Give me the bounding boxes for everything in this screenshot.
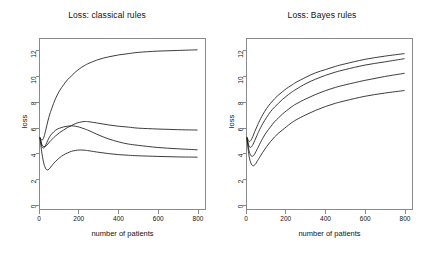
y-tick-label: 10 [30, 76, 37, 90]
x-tick-label: 400 [316, 215, 336, 222]
plot-area-classical [39, 38, 206, 210]
x-tick-label: 200 [69, 215, 89, 222]
y-axis-title-classical: loss [20, 102, 29, 142]
y-tick-label: 6 [30, 128, 37, 142]
curve-group-classical [40, 39, 205, 209]
y-tick-label: 12 [237, 50, 244, 64]
data-line-curve-4 [247, 91, 404, 166]
panel-bayes-rules: Loss: Bayes rules 024681012 020040060080… [215, 0, 429, 258]
panel-title-bayes: Loss: Bayes rules [215, 10, 429, 20]
y-tick-label: 4 [237, 153, 244, 167]
x-tick-label: 0 [29, 215, 49, 222]
panel-classical-rules: Loss: classical rules 024681012 02004006… [0, 0, 214, 258]
y-tick-label: 4 [30, 153, 37, 167]
x-tick-label: 200 [276, 215, 296, 222]
plot-area-bayes [246, 38, 413, 210]
x-tick-label: 600 [148, 215, 168, 222]
data-line-curve-2 [40, 121, 197, 146]
y-tick-label: 10 [237, 76, 244, 90]
y-tick-label: 2 [30, 179, 37, 193]
x-tick-label: 800 [188, 215, 208, 222]
x-tick-label: 0 [236, 215, 256, 222]
y-tick-label: 6 [237, 128, 244, 142]
curve-group-bayes [247, 39, 412, 209]
y-tick-label: 8 [30, 102, 37, 116]
x-tick-label: 800 [395, 215, 415, 222]
data-line-curve-1 [247, 54, 404, 142]
x-tick-label: 400 [109, 215, 129, 222]
x-axis-title-bayes: number of patients [246, 229, 413, 238]
panel-title-classical: Loss: classical rules [0, 10, 214, 20]
data-line-curve-4 [40, 138, 197, 170]
x-tick-label: 600 [355, 215, 375, 222]
y-axis-title-bayes: loss [227, 102, 236, 142]
x-axis-title-classical: number of patients [39, 229, 206, 238]
y-tick-label: 8 [237, 102, 244, 116]
y-tick-label: 12 [30, 50, 37, 64]
data-line-curve-3 [247, 73, 404, 156]
figure-container: Loss: classical rules 024681012 02004006… [0, 0, 429, 258]
y-tick-label: 2 [237, 179, 244, 193]
